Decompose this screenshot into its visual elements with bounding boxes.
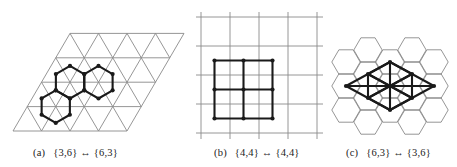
dual-vertex-dot [388,84,392,88]
dual-vertex-dot [270,87,274,91]
hexagon-vertex-dot [40,96,44,100]
dual-vertex-dot [410,72,414,76]
dual-vertex-dot [241,87,245,91]
panel-a-triangular-lattice [13,33,184,131]
caption-c-label: {6,3} ↔ {3,6} [366,147,431,158]
hexagon-vertex-dot [82,88,86,92]
dual-tilings-figure [0,0,457,167]
dual-vertex-dot [388,108,392,112]
hexagon-vertex-dot [82,72,86,76]
hexagon-vertex-dot [68,96,72,100]
hexagon-vertex-dot [54,72,58,76]
caption-b-tag: (b) [214,147,227,158]
dual-vertex-dot [432,84,436,88]
dual-triangle-edge [368,62,390,74]
hexagon-vertex-dot [40,113,44,117]
dual-vertex-dot [344,84,348,88]
caption-b: (b){4,4} ↔ {4,4} [214,147,300,158]
dual-triangle-edge [390,62,412,74]
hexagon-vertex-dot [54,88,58,92]
caption-a-tag: (a) [33,147,45,158]
caption-a-label: {3,6} ↔ {6,3} [53,147,118,158]
dual-vertex-dot [388,60,392,64]
dual-triangle-edge [368,98,390,110]
caption-a: (a){3,6} ↔ {6,3} [33,147,118,158]
dual-triangle-edge [390,98,412,110]
caption-c-tag: (c) [346,147,358,158]
hexagon-vertex-dot [96,64,100,68]
dual-vertex-dot [270,58,274,62]
dual-vertex-dot [410,96,414,100]
dual-vertex-dot [366,72,370,76]
dual-vertex-dot [212,87,216,91]
hexagon-vertex-dot [68,113,72,117]
panel-b-square-lattice [196,12,323,139]
caption-c: (c){6,3} ↔ {3,6} [346,147,431,158]
hexagon-vertex-dot [68,64,72,68]
hexagon-vertex-dot [111,88,115,92]
lattice-edge [27,107,41,131]
dual-vertex-dot [270,116,274,120]
lattice-edge [156,33,170,57]
dual-vertex-dot [212,116,216,120]
dual-vertex-dot [241,58,245,62]
hexagon-vertex-dot [96,96,100,100]
dual-vertex-dot [212,58,216,62]
dual-vertex-dot [241,116,245,120]
hexagon-vertex-dot [54,121,58,125]
caption-b-label: {4,4} ↔ {4,4} [235,147,300,158]
hexagon-vertex-dot [111,72,115,76]
dual-vertex-dot [366,96,370,100]
panel-c-hexagonal-lattice [332,38,448,134]
